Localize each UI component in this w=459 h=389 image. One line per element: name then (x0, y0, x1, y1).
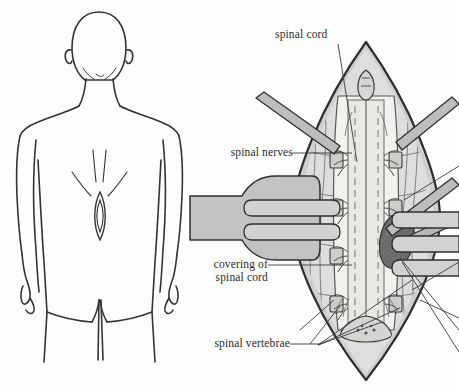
label-covering-line1: covering of (214, 258, 268, 270)
left-retractor-frame (190, 176, 320, 260)
label-spinal-cord: spinal cord (275, 28, 327, 41)
right-retractor-prongs (392, 212, 459, 276)
label-covering-of-spinal-cord: covering ofspinal cord (150, 258, 268, 283)
label-spinal-vertebrae: spinal vertebrae (160, 337, 290, 350)
label-spinal-nerves: spinal nerves (175, 146, 293, 159)
spinal-exposure-panel (0, 0, 459, 389)
label-covering-line2: spinal cord (216, 271, 268, 283)
illustration-canvas: spinal cord spinal nerves covering ofspi… (0, 0, 459, 389)
